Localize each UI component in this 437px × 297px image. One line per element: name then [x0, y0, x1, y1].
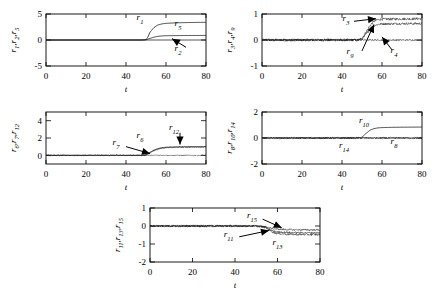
x-tick-label: 80	[202, 71, 212, 81]
x-tick-label: 0	[44, 71, 49, 81]
x-axis-label: t	[341, 182, 344, 192]
x-tick-label: 60	[273, 267, 283, 277]
y-tick-label: -1	[251, 61, 259, 71]
plot-frame	[150, 208, 320, 262]
x-tick-label: 40	[338, 169, 348, 179]
x-tick-label: 80	[316, 267, 326, 277]
x-tick-label: 20	[298, 71, 308, 81]
y-tick-label: 0	[38, 151, 43, 161]
x-tick-label: 60	[162, 169, 172, 179]
y-tick-label: 1	[254, 9, 259, 19]
plot-svg-bottom-center: 020406080-2-101tr15r11r13	[110, 208, 360, 297]
x-tick-label: 0	[260, 71, 265, 81]
plot-svg-middle-left: 020406080024tr6r12r7	[6, 112, 246, 204]
y-tick-label: 1	[142, 203, 147, 213]
plot-svg-middle-right: 020406080-202tr10r14r8	[222, 112, 437, 204]
x-tick-label: 40	[231, 267, 241, 277]
x-tick-label: 80	[202, 169, 212, 179]
x-tick-label: 40	[338, 71, 348, 81]
plot-svg-top-right: 020406080-101tr3r9r4	[222, 14, 437, 106]
plot-svg-top-left: 020406080-505tr1r5r2	[6, 14, 246, 106]
y-tick-label: 0	[254, 133, 259, 143]
y-tick-label: 0	[254, 35, 259, 45]
y-tick-label: 5	[38, 9, 43, 19]
x-tick-label: 80	[418, 169, 428, 179]
x-tick-label: 20	[188, 267, 198, 277]
x-tick-label: 60	[162, 71, 172, 81]
x-tick-label: 20	[298, 169, 308, 179]
x-tick-label: 40	[122, 71, 132, 81]
x-axis-label: t	[341, 84, 344, 94]
y-tick-label: 4	[38, 116, 43, 126]
y-tick-label: -1	[139, 239, 147, 249]
y-tick-label: -2	[251, 159, 259, 169]
x-tick-label: 0	[44, 169, 49, 179]
x-tick-label: 0	[148, 267, 153, 277]
x-axis-label: t	[125, 182, 128, 192]
x-tick-label: 60	[378, 71, 388, 81]
y-tick-label: 0	[38, 35, 43, 45]
x-tick-label: 80	[418, 71, 428, 81]
x-tick-label: 60	[378, 169, 388, 179]
y-tick-label: -5	[35, 61, 43, 71]
x-tick-label: 0	[260, 169, 265, 179]
y-tick-label: 2	[38, 133, 43, 143]
x-tick-label: 40	[122, 169, 132, 179]
y-tick-label: -2	[139, 257, 147, 267]
x-tick-label: 20	[82, 169, 92, 179]
y-tick-label: 0	[142, 221, 147, 231]
x-axis-label: t	[234, 280, 237, 290]
y-tick-label: 2	[254, 107, 259, 117]
x-axis-label: t	[125, 84, 128, 94]
x-tick-label: 20	[82, 71, 92, 81]
